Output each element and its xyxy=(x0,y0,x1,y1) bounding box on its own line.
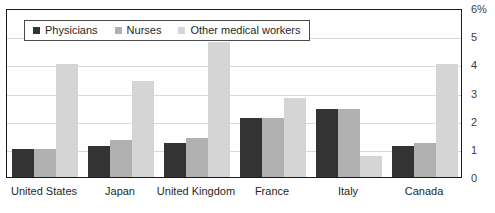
bar xyxy=(208,42,230,177)
bar xyxy=(262,118,284,177)
bar xyxy=(436,64,458,177)
y-tick-label: 3 xyxy=(471,89,477,100)
legend-item: Physicians xyxy=(33,25,98,36)
x-tick-label: Canada xyxy=(405,186,444,197)
x-tick-label: Italy xyxy=(338,186,358,197)
bar xyxy=(284,98,306,177)
y-tick-label: 6% xyxy=(471,4,487,15)
y-tick-label: 2 xyxy=(471,117,477,128)
x-tick-label: United Kingdom xyxy=(157,186,235,197)
bar xyxy=(240,118,262,177)
bar xyxy=(56,64,78,177)
bar-group xyxy=(392,10,458,177)
legend-item-label: Physicians xyxy=(45,25,98,36)
legend-item: Other medical workers xyxy=(178,25,300,36)
y-tick-label: 1 xyxy=(471,145,477,156)
bar-chart-figure: PhysiciansNursesOther medical workers 6%… xyxy=(0,0,495,213)
legend-swatch-icon xyxy=(178,27,185,34)
y-axis: 6%543210 xyxy=(466,0,495,213)
bar xyxy=(186,138,208,177)
x-axis: United StatesJapanUnited KingdomFranceIt… xyxy=(6,186,462,206)
legend-swatch-icon xyxy=(115,27,122,34)
chart-legend: PhysiciansNursesOther medical workers xyxy=(24,20,310,41)
bar xyxy=(132,81,154,177)
bar xyxy=(360,156,382,177)
bar xyxy=(392,146,414,177)
x-tick-label: United States xyxy=(11,186,77,197)
bar xyxy=(110,140,132,177)
y-tick-label: 5 xyxy=(471,32,477,43)
x-tick-label: France xyxy=(255,186,289,197)
x-tick-label: Japan xyxy=(105,186,135,197)
bar-group xyxy=(316,10,382,177)
legend-item: Nurses xyxy=(115,25,162,36)
bar xyxy=(338,109,360,177)
legend-item-label: Other medical workers xyxy=(190,25,300,36)
bar xyxy=(12,149,34,177)
y-tick-label: 0 xyxy=(471,173,477,184)
bar xyxy=(164,143,186,177)
bar xyxy=(316,109,338,177)
y-tick-label: 4 xyxy=(471,60,477,71)
bar xyxy=(34,149,56,177)
bar xyxy=(414,143,436,177)
plot-area: PhysiciansNursesOther medical workers xyxy=(6,9,462,178)
legend-swatch-icon xyxy=(33,27,40,34)
legend-item-label: Nurses xyxy=(127,25,162,36)
bar xyxy=(88,146,110,177)
cropped-title-strip xyxy=(0,0,495,5)
